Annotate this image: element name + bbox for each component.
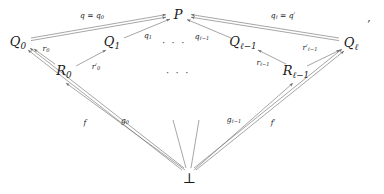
- ellipsis-top: · · ·: [162, 38, 186, 48]
- node-R0: R0: [56, 64, 71, 79]
- edge-bottom-stub-right: [191, 120, 199, 168]
- node-Q1: Q1: [104, 35, 120, 50]
- commutative-diagram: Q0 Q1 P Qℓ−1 Qℓ R0 Rℓ−1 ⊥ · · · · · · q …: [0, 0, 384, 194]
- node-P: P: [174, 8, 183, 21]
- trailing-comma: ,: [367, 12, 371, 23]
- edge-ql-to-p: [191, 15, 339, 41]
- edge-label-q-equals-q0: q = q0: [80, 12, 104, 21]
- edge-bottom-to-rlm1: [194, 83, 293, 170]
- node-Q0: Q0: [10, 35, 26, 50]
- edge-label-f: f: [84, 119, 87, 127]
- edge-label-r-l-minus-1: rℓ−1: [256, 59, 269, 68]
- edge-label-g0: g0: [121, 117, 129, 126]
- edge-label-r-l-minus-1-prime: r′ℓ−1: [303, 44, 318, 53]
- edge-label-ql-equals-qprime: qℓ = q′: [271, 12, 296, 21]
- node-Q-l: Qℓ: [344, 36, 358, 51]
- edge-label-f-prime: f′: [271, 119, 275, 127]
- edge-label-g-l-minus-1: gℓ−1: [227, 116, 241, 125]
- diagram-edges: [0, 0, 384, 194]
- edge-label-r0-prime: r′0: [92, 63, 101, 72]
- ellipsis-middle: · · ·: [166, 68, 190, 78]
- edge-label-q1: q1: [144, 32, 152, 41]
- edge-label-r0: r0: [43, 45, 50, 54]
- edge-label-q-l-minus-1: qℓ−1: [195, 33, 209, 42]
- node-bottom: ⊥: [182, 171, 195, 185]
- node-R-l-minus-1: Rℓ−1: [283, 64, 310, 79]
- node-Q-l-minus-1: Qℓ−1: [229, 35, 256, 50]
- edge-bottom-to-q0: [28, 48, 184, 170]
